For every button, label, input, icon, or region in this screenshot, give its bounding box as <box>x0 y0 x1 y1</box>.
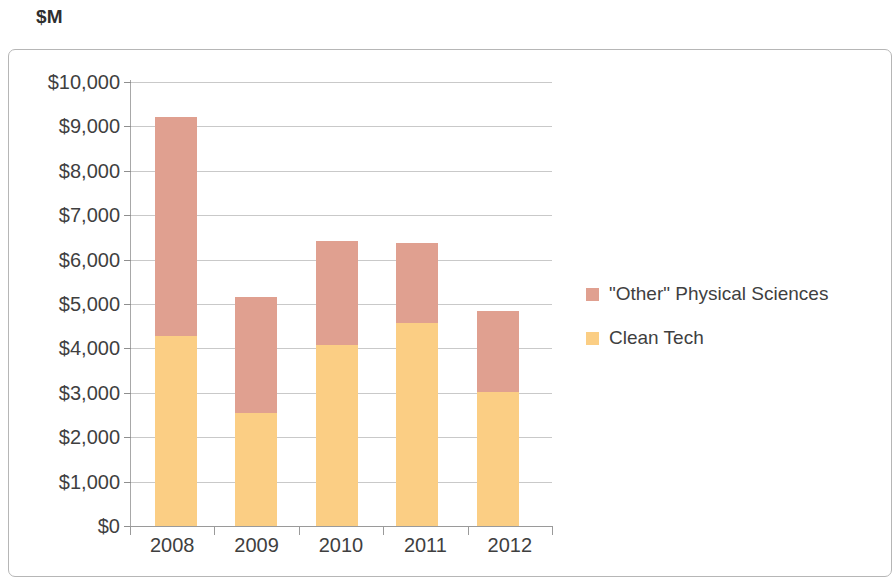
y-axis-tick-label: $4,000 <box>16 337 120 360</box>
legend-item-label: "Other" Physical Sciences <box>609 283 828 305</box>
y-axis-tick <box>124 171 131 172</box>
y-axis-tick <box>124 126 131 127</box>
x-axis-tick <box>468 526 469 535</box>
legend-swatch-icon <box>586 332 599 345</box>
bar-segment-clean-tech <box>477 392 519 526</box>
y-axis-tick <box>124 215 131 216</box>
bar-group <box>316 82 358 526</box>
x-axis-tick <box>130 526 131 535</box>
bar-group <box>396 82 438 526</box>
x-axis-line <box>130 526 552 527</box>
bar-segment-clean-tech <box>155 336 197 526</box>
legend-item-label: Clean Tech <box>609 327 704 349</box>
bar-segment-other-physical-sciences <box>477 311 519 392</box>
y-axis-tick <box>124 82 131 83</box>
y-axis-tick-label: $1,000 <box>16 470 120 493</box>
bar-segment-clean-tech <box>316 345 358 526</box>
x-axis-tick-label: 2010 <box>299 534 383 557</box>
y-axis-tick <box>124 304 131 305</box>
legend-item: Clean Tech <box>586 327 866 349</box>
y-axis-labels: $0$1,000$2,000$3,000$4,000$5,000$6,000$7… <box>8 0 120 584</box>
x-axis-tick-label: 2011 <box>383 534 467 557</box>
bar-segment-other-physical-sciences <box>396 243 438 323</box>
y-axis-tick-label: $0 <box>16 515 120 538</box>
bar-group <box>155 82 197 526</box>
bar-group <box>477 82 519 526</box>
y-axis-tick-label: $9,000 <box>16 115 120 138</box>
y-axis-tick-label: $3,000 <box>16 381 120 404</box>
y-axis-tick-label: $2,000 <box>16 426 120 449</box>
bar-group <box>235 82 277 526</box>
x-axis-tick <box>383 526 384 535</box>
x-axis-tick <box>299 526 300 535</box>
y-axis-tick <box>124 260 131 261</box>
x-axis-tick <box>552 526 553 535</box>
bar-segment-clean-tech <box>396 323 438 526</box>
y-axis-tick-label: $10,000 <box>16 71 120 94</box>
legend-item: "Other" Physical Sciences <box>586 283 866 305</box>
y-axis-tick <box>124 437 131 438</box>
y-axis-tick <box>124 482 131 483</box>
y-axis-tick-label: $5,000 <box>16 293 120 316</box>
bar-segment-clean-tech <box>235 413 277 526</box>
chart-legend: "Other" Physical SciencesClean Tech <box>586 283 866 371</box>
y-axis-tick-label: $7,000 <box>16 204 120 227</box>
x-axis-tick <box>214 526 215 535</box>
bar-segment-other-physical-sciences <box>235 297 277 412</box>
y-axis-tick-label: $6,000 <box>16 248 120 271</box>
bar-segment-other-physical-sciences <box>316 241 358 345</box>
plot-area <box>130 82 552 526</box>
x-axis-tick-label: 2009 <box>215 534 299 557</box>
y-axis-tick <box>124 348 131 349</box>
y-axis-tick-label: $8,000 <box>16 159 120 182</box>
y-axis-tick <box>124 393 131 394</box>
legend-swatch-icon <box>586 288 599 301</box>
x-axis-tick-label: 2008 <box>130 534 214 557</box>
x-axis-tick-label: 2012 <box>468 534 552 557</box>
bar-segment-other-physical-sciences <box>155 117 197 335</box>
